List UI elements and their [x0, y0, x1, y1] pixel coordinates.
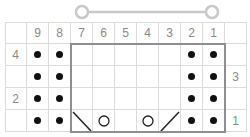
row-label-left — [5, 110, 27, 132]
stitch-cell-knit — [71, 88, 93, 110]
stitch-cell-yo — [137, 110, 159, 132]
row-label-left — [5, 66, 27, 88]
column-number: 4 — [137, 22, 159, 44]
stitch-cell-purl — [203, 110, 225, 132]
bullet-dot-icon — [34, 73, 41, 80]
column-number: 5 — [115, 22, 137, 44]
stitch-cell-knit — [93, 44, 115, 66]
stitch-cell-purl — [181, 44, 203, 66]
stitch-cell-purl — [27, 110, 49, 132]
bullet-dot-icon — [34, 51, 41, 58]
stitch-cell-purl — [27, 88, 49, 110]
stitch-cell-k2tog — [159, 110, 181, 132]
bullet-dot-icon — [34, 95, 41, 102]
column-number: 7 — [71, 22, 93, 44]
stitch-cell-knit — [159, 88, 181, 110]
stitch-cell-purl — [49, 88, 71, 110]
stitch-cell-knit — [159, 66, 181, 88]
stitch-cell-yo — [93, 110, 115, 132]
bullet-dot-icon — [188, 117, 195, 124]
corner-cell — [5, 22, 27, 44]
stitch-cell-knit — [137, 88, 159, 110]
stitch-cell-knit — [137, 66, 159, 88]
bullet-dot-icon — [188, 95, 195, 102]
stitch-cell-purl — [49, 110, 71, 132]
stitch-cell-knit — [115, 66, 137, 88]
backslash-decrease-icon — [71, 110, 92, 132]
stitch-cell-purl — [27, 44, 49, 66]
stitch-cell-knit — [115, 44, 137, 66]
bullet-dot-icon — [210, 117, 217, 124]
bullet-dot-icon — [210, 95, 217, 102]
stitch-cell-knit — [71, 44, 93, 66]
stitch-cell-knit — [93, 66, 115, 88]
stitch-cell-purl — [203, 66, 225, 88]
row-label-right — [225, 44, 247, 66]
bullet-dot-icon — [56, 117, 63, 124]
row-label-left: 4 — [5, 44, 27, 66]
column-number: 8 — [49, 22, 71, 44]
stitch-cell-purl — [203, 88, 225, 110]
stitch-cell-purl — [181, 88, 203, 110]
bullet-dot-icon — [34, 117, 41, 124]
stitch-cell-purl — [203, 44, 225, 66]
row-label-right — [225, 88, 247, 110]
corner-cell — [225, 22, 247, 44]
slider-right-handle[interactable] — [206, 6, 218, 18]
circle-yarn-over-icon — [97, 114, 111, 128]
bullet-dot-icon — [188, 51, 195, 58]
column-number: 3 — [159, 22, 181, 44]
range-slider-track — [0, 0, 250, 22]
stitch-cell-purl — [49, 44, 71, 66]
range-slider[interactable] — [0, 0, 250, 22]
column-number: 2 — [181, 22, 203, 44]
stitch-cell-purl — [27, 66, 49, 88]
circle-yarn-over-icon — [141, 114, 155, 128]
stitch-cell-purl — [181, 110, 203, 132]
bullet-dot-icon — [56, 95, 63, 102]
stitch-cell-knit — [71, 66, 93, 88]
bullet-dot-icon — [210, 73, 217, 80]
column-number: 6 — [93, 22, 115, 44]
stitch-cell-purl — [181, 66, 203, 88]
bullet-dot-icon — [56, 51, 63, 58]
stitch-cell-knit — [159, 44, 181, 66]
stitch-cell-purl — [49, 66, 71, 88]
column-number: 1 — [203, 22, 225, 44]
stitch-cell-knit — [93, 88, 115, 110]
bullet-dot-icon — [56, 73, 63, 80]
slider-left-handle[interactable] — [76, 6, 88, 18]
slash-decrease-icon — [159, 110, 180, 132]
row-label-right: 1 — [225, 110, 247, 132]
knitting-chart: 9876543214321 — [5, 22, 247, 132]
stitch-cell-knit — [115, 88, 137, 110]
bullet-dot-icon — [188, 73, 195, 80]
row-label-left: 2 — [5, 88, 27, 110]
row-label-right: 3 — [225, 66, 247, 88]
column-number: 9 — [27, 22, 49, 44]
stitch-cell-ssk — [71, 110, 93, 132]
stitch-cell-knit — [137, 44, 159, 66]
stitch-cell-knit — [115, 110, 137, 132]
bullet-dot-icon — [210, 51, 217, 58]
